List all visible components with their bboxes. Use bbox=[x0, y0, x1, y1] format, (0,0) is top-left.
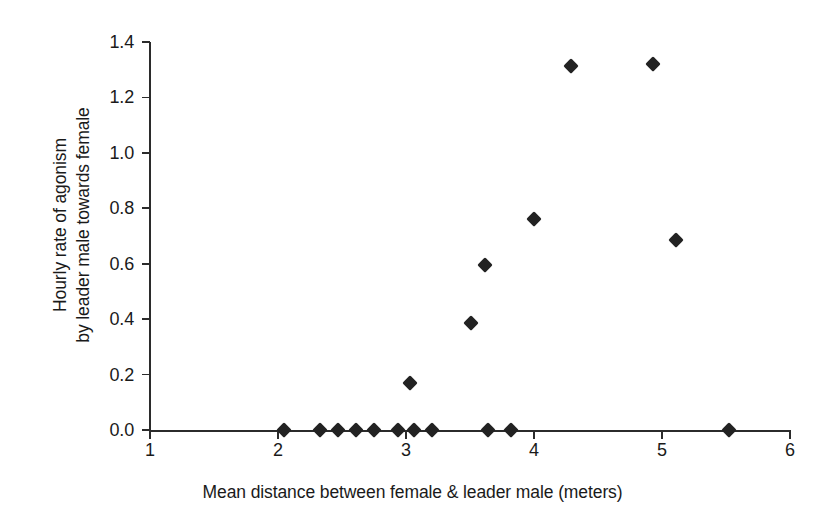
x-tick-label: 1 bbox=[145, 440, 155, 461]
x-tick-mark bbox=[405, 431, 407, 439]
y-tick-label: 0.6 bbox=[110, 253, 134, 274]
x-axis-label: Mean distance between female & leader ma… bbox=[0, 482, 825, 503]
data-point bbox=[526, 212, 542, 228]
x-tick-label: 6 bbox=[785, 440, 795, 461]
y-axis-line bbox=[149, 42, 151, 430]
data-point bbox=[480, 422, 496, 438]
x-axis-line bbox=[149, 430, 791, 432]
y-tick-label: 0.2 bbox=[110, 364, 134, 385]
x-tick-mark bbox=[661, 431, 663, 439]
x-tick-label: 4 bbox=[529, 440, 539, 461]
y-tick: 0.4 bbox=[142, 318, 150, 320]
data-point bbox=[668, 232, 684, 248]
y-tick: 0.8 bbox=[142, 207, 150, 209]
data-point bbox=[563, 58, 579, 74]
y-tick: 0.6 bbox=[142, 263, 150, 265]
y-axis-label: Hourly rate of agonism by leader male to… bbox=[36, 5, 108, 445]
data-point bbox=[391, 422, 407, 438]
data-point bbox=[503, 422, 519, 438]
x-tick-label: 3 bbox=[401, 440, 411, 461]
y-axis-label-line-2: by leader male towards female bbox=[72, 107, 95, 342]
data-point bbox=[424, 422, 440, 438]
data-point bbox=[478, 257, 494, 273]
y-tick-label: 1.0 bbox=[110, 142, 134, 163]
y-tick-label: 0.8 bbox=[110, 198, 134, 219]
data-point bbox=[330, 422, 346, 438]
plot-area: 0.00.20.40.60.81.01.21.4 123456 bbox=[150, 42, 790, 430]
y-tick: 1.2 bbox=[142, 97, 150, 99]
data-point bbox=[402, 375, 418, 391]
y-tick-label: 1.2 bbox=[110, 87, 134, 108]
y-tick-label: 0.4 bbox=[110, 309, 134, 330]
y-tick-mark bbox=[142, 318, 150, 320]
y-tick-mark bbox=[142, 263, 150, 265]
y-axis-label-line-1: Hourly rate of agonism bbox=[49, 138, 72, 312]
y-tick-mark bbox=[142, 41, 150, 43]
x-tick-mark bbox=[789, 431, 791, 439]
data-point bbox=[721, 422, 737, 438]
x-tick-label: 2 bbox=[273, 440, 283, 461]
y-tick: 1.4 bbox=[142, 41, 150, 43]
data-point bbox=[366, 422, 382, 438]
x-tick-mark bbox=[149, 431, 151, 439]
data-point bbox=[645, 56, 661, 72]
x-tick-label: 5 bbox=[657, 440, 667, 461]
y-tick-mark bbox=[142, 97, 150, 99]
data-point bbox=[406, 422, 422, 438]
y-tick-label: 0.0 bbox=[110, 419, 134, 440]
y-tick-mark bbox=[142, 374, 150, 376]
data-point bbox=[312, 422, 328, 438]
data-point bbox=[348, 422, 364, 438]
y-tick-mark bbox=[142, 152, 150, 154]
y-tick-label: 1.4 bbox=[110, 32, 134, 53]
y-tick: 1.0 bbox=[142, 152, 150, 154]
y-tick-mark bbox=[142, 207, 150, 209]
y-tick: 0.2 bbox=[142, 374, 150, 376]
data-point bbox=[277, 422, 293, 438]
data-point bbox=[463, 316, 479, 332]
scatter-plot-figure: Hourly rate of agonism by leader male to… bbox=[0, 0, 825, 520]
x-tick-mark bbox=[533, 431, 535, 439]
